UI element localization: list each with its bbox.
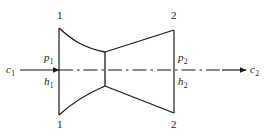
nozzle-diagram-figure: c1 c2 p1 h1 p2 h2 1 1 2 2 bbox=[0, 0, 264, 139]
inlet-enthalpy-label: h1 bbox=[44, 76, 53, 87]
outlet-enthalpy-label: h2 bbox=[178, 76, 187, 87]
inlet-pressure-symbol: p bbox=[44, 51, 50, 63]
station-marker-2-bottom: 2 bbox=[171, 119, 177, 130]
inlet-velocity-label: c1 bbox=[6, 64, 15, 75]
inlet-pressure-label: p1 bbox=[44, 52, 53, 63]
inlet-pressure-subscript: 1 bbox=[50, 57, 54, 66]
lower-converging-wall bbox=[59, 86, 105, 115]
inlet-enthalpy-subscript: 1 bbox=[50, 81, 54, 90]
station-marker-1-top: 1 bbox=[57, 10, 63, 21]
lower-diverging-wall bbox=[105, 86, 174, 113]
outlet-velocity-subscript: 2 bbox=[255, 69, 259, 78]
outlet-pressure-subscript: 2 bbox=[184, 57, 188, 66]
outlet-pressure-label: p2 bbox=[178, 52, 187, 63]
outlet-enthalpy-subscript: 2 bbox=[184, 81, 188, 90]
outlet-enthalpy-symbol: h bbox=[178, 75, 184, 87]
upper-diverging-wall bbox=[105, 30, 174, 52]
station-marker-1-bottom: 1 bbox=[57, 119, 63, 130]
outlet-pressure-symbol: p bbox=[178, 51, 184, 63]
inlet-enthalpy-symbol: h bbox=[44, 75, 50, 87]
nozzle-schematic-svg bbox=[0, 0, 264, 139]
inlet-velocity-subscript: 1 bbox=[11, 69, 15, 78]
outlet-velocity-label: c2 bbox=[250, 64, 259, 75]
station-marker-2-top: 2 bbox=[171, 10, 177, 21]
upper-converging-wall bbox=[59, 28, 105, 52]
